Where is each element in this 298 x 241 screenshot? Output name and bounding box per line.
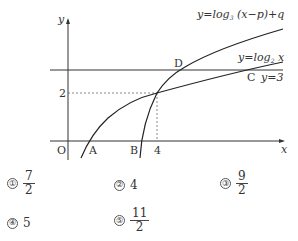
numerator: 7 [23, 170, 35, 184]
option-marker: ⑤ [114, 215, 125, 226]
curve2-label-prefix: y=log [238, 51, 271, 64]
point-a-label: A [89, 145, 97, 156]
option-4[interactable]: ④ 5 [7, 216, 31, 230]
denominator: 2 [136, 221, 144, 234]
curve-log3-shifted [140, 29, 283, 158]
option-marker: ① [7, 178, 18, 189]
point-b-label: B [130, 145, 138, 156]
curve1-label: y=log3 (x−p)+q [197, 9, 284, 23]
numerator: 9 [236, 170, 248, 184]
x-axis-label: x [281, 144, 287, 155]
curve2-label: y=log2 x [238, 52, 284, 66]
option-marker: ② [114, 180, 125, 191]
denominator: 2 [25, 184, 33, 197]
option-value-fraction: 72 [23, 170, 35, 197]
option-3[interactable]: ③ 92 [220, 170, 248, 197]
point-d-label: D [174, 58, 183, 69]
y-axis-label: y [58, 14, 64, 25]
option-2[interactable]: ② 4 [114, 178, 138, 192]
option-value-fraction: 112 [130, 207, 149, 234]
line-y3-label: y=3 [261, 72, 283, 83]
curve2-label-arg: x [274, 51, 284, 64]
option-value: 4 [130, 178, 138, 192]
graph-figure: y x O 2 4 A B C D y=log3 (x−p)+q y=log2 … [0, 0, 298, 165]
denominator: 2 [238, 184, 246, 197]
y-axis-arrow-icon [66, 18, 70, 24]
point-c-label: C [247, 72, 255, 83]
option-1[interactable]: ① 72 [7, 170, 35, 197]
option-marker: ③ [220, 178, 231, 189]
curve1-label-prefix: y=log [197, 8, 230, 21]
option-marker: ④ [7, 218, 18, 229]
origin-label: O [57, 145, 66, 156]
x-tick-4: 4 [154, 145, 161, 156]
option-value: 5 [23, 216, 31, 230]
curve1-label-arg: (x−p)+q [233, 8, 284, 21]
numerator: 11 [130, 207, 149, 221]
option-value-fraction: 92 [236, 170, 248, 197]
y-tick-2: 2 [59, 88, 66, 99]
option-5[interactable]: ⑤ 112 [114, 207, 149, 234]
